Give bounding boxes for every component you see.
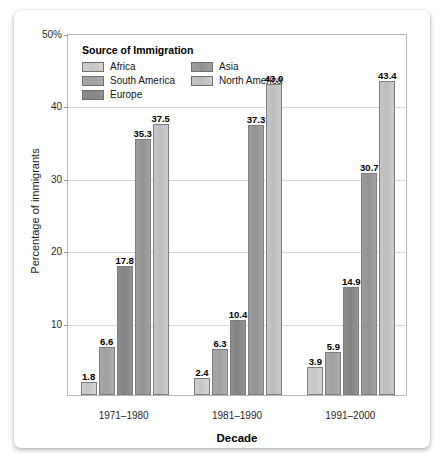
bar: [212, 349, 228, 395]
bar: [307, 367, 323, 395]
bar: [325, 352, 341, 395]
legend-item: Africa: [82, 61, 175, 72]
legend-swatch-africa: [82, 62, 104, 72]
legend-label: Europe: [110, 89, 142, 100]
plot-area: 1.86.617.835.337.52.46.310.437.343.03.95…: [67, 34, 407, 396]
y-tick-label: 30: [51, 173, 62, 184]
gridline: [68, 107, 406, 108]
y-tick-label: 10: [51, 318, 62, 329]
y-tick-label: 20: [51, 246, 62, 257]
bar-value-label: 14.9: [342, 276, 361, 287]
x-tick-label: 1971–1980: [99, 410, 149, 421]
legend-column-left: AfricaSouth AmericaEurope: [82, 61, 175, 100]
legend-item: Asia: [191, 61, 282, 72]
y-tick-mark: [64, 35, 68, 36]
y-axis-title: Percentage of immigrants: [29, 121, 41, 301]
y-tick-label: 40: [51, 101, 62, 112]
bar-value-label: 6.3: [213, 338, 226, 349]
bar-value-label: 17.8: [115, 255, 134, 266]
legend-label: Africa: [110, 61, 136, 72]
bar: [135, 139, 151, 395]
y-tick-label: 50%: [42, 29, 62, 40]
bar-value-label: 43.4: [378, 70, 397, 81]
legend-swatch-asia: [191, 62, 213, 72]
legend-item: South America: [82, 75, 175, 86]
chart-legend: Source of Immigration AfricaSouth Americ…: [80, 42, 282, 100]
bar-value-label: 37.3: [247, 114, 266, 125]
bar-value-label: 5.9: [327, 341, 340, 352]
bar: [266, 84, 282, 395]
bar: [194, 378, 210, 395]
bar-value-label: 35.3: [133, 128, 152, 139]
bar-value-label: 10.4: [229, 309, 248, 320]
bar: [361, 173, 377, 395]
legend-item: Europe: [82, 89, 175, 100]
legend-label: Asia: [219, 61, 238, 72]
bar: [343, 287, 359, 395]
x-axis-title: Decade: [67, 432, 407, 444]
bar-value-label: 37.5: [151, 113, 170, 124]
bar: [117, 266, 133, 395]
bar: [248, 125, 264, 395]
y-tick-mark: [64, 325, 68, 326]
bar: [379, 81, 395, 395]
legend-label: South America: [110, 75, 175, 86]
legend-item: North America: [191, 75, 282, 86]
y-tick-mark: [64, 107, 68, 108]
bar-value-label: 2.4: [195, 367, 208, 378]
legend-columns: AfricaSouth AmericaEurope AsiaNorth Amer…: [82, 61, 282, 100]
bar: [230, 320, 246, 395]
bar-value-label: 3.9: [309, 356, 322, 367]
legend-swatch-south-america: [82, 76, 104, 86]
legend-column-right: AsiaNorth America: [191, 61, 282, 100]
bar: [99, 347, 115, 395]
y-tick-mark: [64, 180, 68, 181]
legend-label: North America: [219, 75, 282, 86]
bar: [81, 382, 97, 395]
x-tick-label: 1981–1990: [212, 410, 262, 421]
legend-swatch-north-america: [191, 76, 213, 86]
bar-value-label: 6.6: [100, 336, 113, 347]
legend-title: Source of Immigration: [82, 44, 282, 56]
bar: [153, 124, 169, 396]
x-tick-label: 1991–2000: [325, 410, 375, 421]
gridline: [68, 180, 406, 181]
figure-card: 1020304050% Percentage of immigrants 1.8…: [14, 10, 430, 448]
gridline: [68, 252, 406, 253]
bar-value-label: 30.7: [360, 162, 379, 173]
bar-value-label: 1.8: [82, 371, 95, 382]
y-tick-mark: [64, 252, 68, 253]
legend-swatch-europe: [82, 90, 104, 100]
